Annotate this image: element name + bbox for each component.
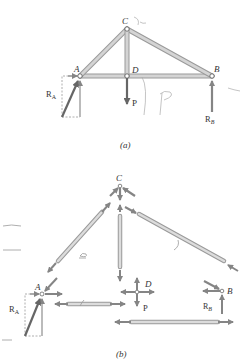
label-d-b: D [144,279,152,289]
pencil-marks-a [134,17,240,115]
joint-a-b [40,292,44,296]
joint-a [78,74,82,78]
member-cb [125,207,238,271]
reaction-ra-a [62,76,80,117]
label-c-b: C [116,173,123,183]
truss-diagram: P RB RA A D B C (a) C [0,0,251,363]
caption-a: (a) [120,140,131,150]
label-a-b: A [34,282,41,292]
label-c: C [122,16,129,26]
label-b-b: B [227,286,233,296]
reaction-rb-label-b: RB [203,302,212,312]
label-d: D [131,65,139,75]
figure-a: P RB RA A D B C (a) [46,16,240,150]
reaction-rb-label: RB [205,114,215,125]
reaction-ra-label: RA [46,89,57,100]
joint-d-b [135,290,139,294]
joint-c-b [118,184,122,188]
joint-c [125,27,129,31]
joint-b [210,74,214,78]
joint-c-forces [110,188,135,200]
reaction-ra-label-b: RA [9,304,20,315]
load-p-label: P [132,98,137,108]
caption-b: (b) [116,349,127,359]
joint-a-forces [25,278,62,336]
label-b: B [214,64,220,74]
member-ac [48,203,110,272]
truss-members-a [80,29,212,76]
figure-b: C A [2,173,238,359]
label-a: A [73,64,80,74]
joint-d [125,74,129,78]
joint-b-b [220,289,224,293]
load-p-label-b: P [143,303,148,313]
